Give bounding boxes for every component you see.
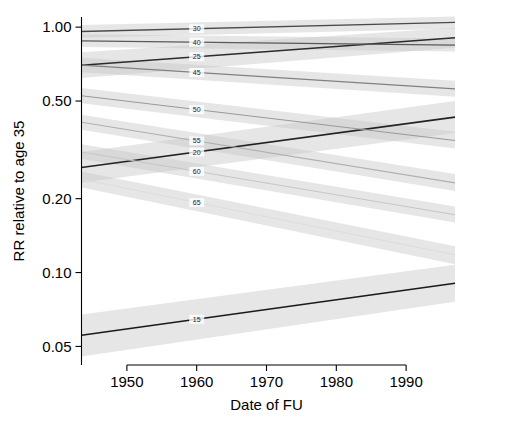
series-label-age-55: 55 bbox=[193, 137, 201, 144]
x-axis-tick-label: 1960 bbox=[180, 373, 213, 390]
series-label-age-45: 45 bbox=[193, 69, 201, 76]
y-axis-title: RR relative to age 35 bbox=[10, 121, 27, 262]
series-label-age-20: 20 bbox=[193, 149, 201, 156]
series-labels-layer: 15202530404550556065 bbox=[189, 24, 204, 324]
chart-canvas: 15202530404550556065 1.000.500.200.100.0… bbox=[0, 0, 508, 427]
confidence-bands-layer bbox=[82, 17, 456, 357]
y-axis-tick-label: 1.00 bbox=[42, 18, 71, 35]
series-label-age-60: 60 bbox=[193, 168, 201, 175]
series-line-age-45 bbox=[82, 65, 456, 89]
y-axis-tick-label: 0.20 bbox=[42, 190, 71, 207]
series-label-age-25: 25 bbox=[193, 53, 201, 60]
x-axis-tick-label: 1990 bbox=[389, 373, 422, 390]
y-axis-tick-label: 0.50 bbox=[42, 92, 71, 109]
series-label-age-65: 65 bbox=[193, 199, 201, 206]
x-axis-tick-label: 1950 bbox=[110, 373, 143, 390]
series-label-age-50: 50 bbox=[193, 106, 201, 113]
series-label-age-15: 15 bbox=[193, 316, 201, 323]
x-axis-title: Date of FU bbox=[230, 396, 303, 413]
series-label-age-30: 30 bbox=[193, 25, 201, 32]
y-axis-tick-label: 0.10 bbox=[42, 264, 71, 281]
series-label-age-40: 40 bbox=[193, 39, 201, 46]
confidence-band-age-15 bbox=[82, 265, 456, 357]
x-axis-tick-label: 1980 bbox=[320, 373, 353, 390]
chart-figure: 15202530404550556065 1.000.500.200.100.0… bbox=[0, 0, 508, 427]
y-axis-tick-label: 0.05 bbox=[42, 338, 71, 355]
x-axis-tick-label: 1970 bbox=[250, 373, 283, 390]
